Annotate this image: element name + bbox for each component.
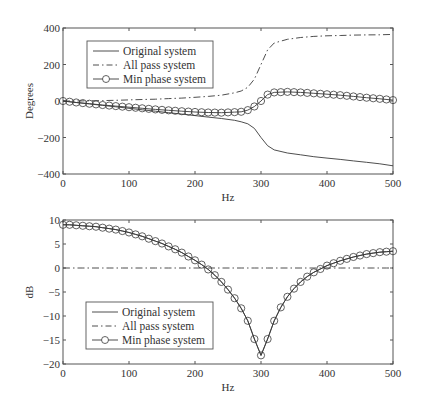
x-tick-label: 300 [253, 177, 270, 189]
legend-circle-marker [102, 337, 109, 344]
y-axis-label: Degrees [23, 83, 35, 119]
y-tick-label: 0 [55, 262, 61, 274]
x-tick-label: 500 [385, 177, 402, 189]
y-tick-label: −5 [48, 286, 60, 298]
y-tick-label: 5 [55, 238, 61, 250]
x-tick-label: 200 [187, 177, 204, 189]
figure: 0100200300400500−400−2000200400HzDegrees… [0, 0, 422, 408]
x-tick-label: 100 [121, 367, 138, 379]
phase-plot: 0100200300400500−400−2000200400HzDegrees… [23, 22, 402, 203]
x-tick-label: 0 [60, 177, 66, 189]
legend-label: Original system [122, 306, 195, 319]
x-tick-label: 100 [121, 177, 138, 189]
y-tick-label: 400 [44, 22, 61, 34]
y-tick-label: −15 [43, 334, 61, 346]
legend-label: Original system [123, 45, 196, 58]
x-axis-label: Hz [222, 381, 235, 393]
series-line-original-system [63, 101, 393, 166]
y-tick-label: 10 [49, 214, 61, 226]
x-axis-label: Hz [222, 191, 235, 203]
y-tick-label: −400 [37, 168, 60, 180]
y-tick-label: 200 [44, 59, 61, 71]
magnitude-plot: 0100200300400500−20−15−10−50510HzdBOrigi… [23, 214, 402, 393]
x-tick-label: 500 [385, 367, 402, 379]
x-tick-label: 400 [319, 367, 336, 379]
legend-label: Min phase system [123, 73, 206, 86]
x-tick-label: 0 [60, 367, 66, 379]
y-axis-label: dB [23, 286, 35, 299]
y-tick-label: −200 [37, 132, 60, 144]
legend-label: All pass system [122, 320, 194, 333]
x-tick-label: 400 [319, 177, 336, 189]
legend-label: All pass system [123, 59, 195, 72]
legend: Original systemAll pass systemMin phase … [87, 41, 213, 88]
x-tick-label: 200 [187, 367, 204, 379]
y-tick-label: −20 [43, 358, 61, 370]
y-tick-label: −10 [43, 310, 61, 322]
x-tick-label: 300 [253, 367, 270, 379]
legend: Original systemAll pass systemMin phase … [86, 302, 213, 349]
legend-circle-marker [103, 76, 110, 83]
legend-label: Min phase system [122, 334, 205, 347]
